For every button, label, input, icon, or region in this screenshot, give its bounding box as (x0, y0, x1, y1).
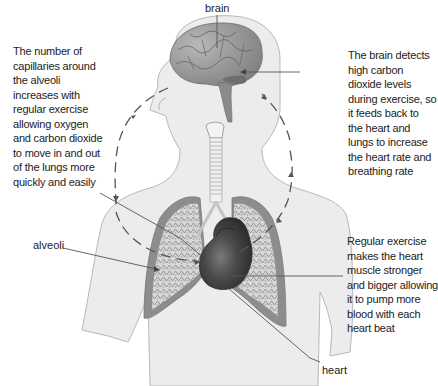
annotation-line: muscle stronger (347, 263, 438, 278)
annotation-line: and bigger allowing (347, 278, 438, 293)
annotation-line: The brain detects (348, 48, 437, 63)
annotation-line: increases with (13, 88, 102, 103)
annotation-heart-muscle: Regular exercise makes the heart muscle … (347, 234, 438, 336)
annotation-line: to move in and out (13, 146, 102, 161)
annotation-line: and carbon dioxide (13, 131, 102, 146)
annotation-line: Regular exercise (347, 234, 438, 249)
annotation-lungs-capillaries: The number of capillaries around the alv… (13, 44, 102, 189)
label-alveoli: alveoli (33, 239, 64, 251)
annotation-line: quickly and easily (13, 175, 102, 190)
annotation-line: it to pump more (347, 292, 438, 307)
annotation-line: high carbon (348, 63, 437, 78)
annotation-line: makes the heart (347, 249, 438, 264)
annotation-line: The number of (13, 44, 102, 59)
annotation-line: allowing oxygen (13, 117, 102, 132)
annotation-line: the heart and (348, 121, 437, 136)
annotation-line: the alveoli (13, 73, 102, 88)
label-heart: heart (322, 364, 347, 376)
annotation-brain-feedback: The brain detects high carbon dioxide le… (348, 48, 437, 179)
annotation-line: capillaries around (13, 59, 102, 74)
annotation-line: regular exercise (13, 102, 102, 117)
annotation-line: blood with each (347, 307, 438, 322)
annotation-line: lungs to increase (348, 135, 437, 150)
annotation-line: during exercise, so (348, 92, 437, 107)
annotation-line: heart beat (347, 321, 438, 336)
label-brain: brain (205, 2, 229, 14)
annotation-line: dioxide levels (348, 77, 437, 92)
annotation-line: it feeds back to (348, 106, 437, 121)
annotation-line: breathing rate (348, 164, 437, 179)
annotation-line: of the lungs more (13, 160, 102, 175)
annotation-line: the heart rate and (348, 150, 437, 165)
